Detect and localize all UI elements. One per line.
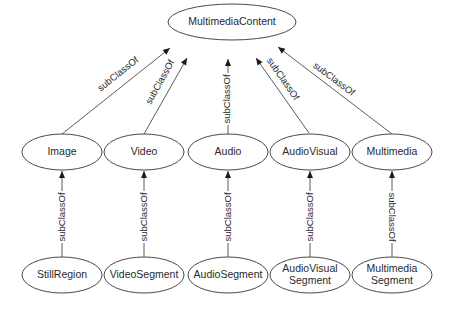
node-label: Video bbox=[131, 145, 158, 157]
edge-audiovisual-to-multimedia-content: subClassOf bbox=[256, 54, 309, 133]
edge-label-group: subClassOf bbox=[56, 191, 68, 243]
edge-label: subClassOf bbox=[95, 54, 141, 93]
edge-label: subClassOf bbox=[143, 57, 177, 106]
edge-label: subClassOf bbox=[222, 192, 233, 241]
node-label: Multimedia bbox=[367, 145, 418, 157]
edge-label-group: subClassOf bbox=[138, 191, 150, 243]
node-audiovisual[interactable]: AudioVisual bbox=[270, 134, 350, 170]
arrowhead-icon bbox=[307, 171, 313, 178]
node-multimedia-content[interactable]: MultimediaContent bbox=[168, 4, 296, 40]
arrowhead-icon bbox=[141, 171, 147, 178]
node-label: Segment bbox=[371, 274, 413, 286]
edge-still-region-to-image: subClassOf bbox=[56, 171, 68, 257]
node-image[interactable]: Image bbox=[22, 134, 102, 170]
node-audio[interactable]: Audio bbox=[188, 134, 268, 170]
edge-audiovisual-segment-to-audiovisual: subClassOf bbox=[304, 171, 316, 257]
arrowhead-icon bbox=[59, 171, 65, 178]
node-label: AudioSegment bbox=[194, 268, 263, 280]
edge-audio-segment-to-audio: subClassOf bbox=[222, 171, 234, 257]
node-video-segment[interactable]: VideoSegment bbox=[104, 257, 184, 293]
node-audiovisual-segment[interactable]: AudioVisualSegment bbox=[270, 257, 350, 293]
edge-label: subClassOf bbox=[138, 192, 149, 241]
node-multimedia-segment[interactable]: MultimediaSegment bbox=[352, 257, 432, 293]
edge-label-group: subClassOf bbox=[94, 53, 142, 95]
edge-label: subClassOf bbox=[221, 74, 232, 123]
arrowhead-icon bbox=[225, 171, 231, 178]
nodes-layer: MultimediaContentImageVideoAudioAudioVis… bbox=[22, 4, 432, 293]
arrowhead-icon bbox=[163, 48, 170, 55]
node-video[interactable]: Video bbox=[104, 134, 184, 170]
node-still-region[interactable]: StillRegion bbox=[22, 257, 102, 293]
node-label: Image bbox=[47, 145, 76, 157]
node-label: AudioVisual bbox=[282, 262, 337, 274]
node-label: AudioVisual bbox=[282, 145, 337, 157]
node-multimedia[interactable]: Multimedia bbox=[352, 134, 432, 170]
edge-video-segment-to-video: subClassOf bbox=[138, 171, 150, 257]
node-label: Multimedia bbox=[367, 262, 418, 274]
edge-label: subClassOf bbox=[56, 192, 67, 241]
edge-label-group: subClassOf bbox=[142, 56, 178, 107]
edge-label-group: subClassOf bbox=[386, 191, 398, 243]
node-label: Segment bbox=[289, 274, 331, 286]
edge-label: subClassOf bbox=[304, 192, 315, 241]
edge-label: subClassOf bbox=[387, 192, 398, 241]
arrowhead-icon bbox=[225, 59, 231, 66]
arrowhead-icon bbox=[278, 47, 285, 54]
edge-video-to-multimedia-content: subClassOf bbox=[142, 56, 187, 134]
node-audio-segment[interactable]: AudioSegment bbox=[188, 257, 268, 293]
edge-label-group: subClassOf bbox=[304, 191, 316, 243]
node-label: VideoSegment bbox=[110, 268, 179, 280]
arrowhead-icon bbox=[389, 171, 395, 178]
node-label: MultimediaContent bbox=[188, 15, 276, 27]
edge-label-group: subClassOf bbox=[221, 73, 233, 125]
edge-audio-to-multimedia-content: subClassOf bbox=[221, 59, 233, 134]
edge-multimedia-segment-to-multimedia: subClassOf bbox=[386, 171, 398, 257]
edge-label-group: subClassOf bbox=[310, 59, 359, 100]
arrowhead-icon bbox=[181, 58, 187, 66]
arrowhead-icon bbox=[256, 58, 262, 65]
node-label: StillRegion bbox=[37, 268, 87, 280]
edge-label: subClassOf bbox=[311, 59, 357, 98]
edge-label-group: subClassOf bbox=[222, 191, 234, 243]
node-label: Audio bbox=[215, 145, 242, 157]
class-hierarchy-diagram: subClassOfsubClassOfsubClassOfsubClassOf… bbox=[0, 0, 452, 309]
